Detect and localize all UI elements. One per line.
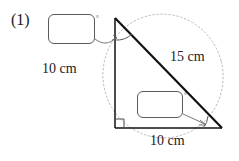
problem-number: (1) [11,12,30,28]
label-base: 10 cm [150,134,185,148]
geometry-figure [0,0,239,161]
apex-angle-arc-icon [115,34,132,40]
degree-symbol-base-icon: ° [184,92,187,99]
answer-box-base-angle[interactable] [137,91,183,118]
leader-line-base [183,114,205,124]
leader-line-apex [95,38,116,43]
right-angle-mark-icon [115,119,124,128]
figure-canvas: (1) 10 cm 15 cm 10 cm ° ° [0,0,239,161]
label-hypotenuse: 15 cm [170,50,205,64]
label-left-side: 10 cm [42,62,77,76]
answer-box-apex-angle[interactable] [48,14,95,44]
degree-symbol-apex-icon: ° [96,15,99,22]
